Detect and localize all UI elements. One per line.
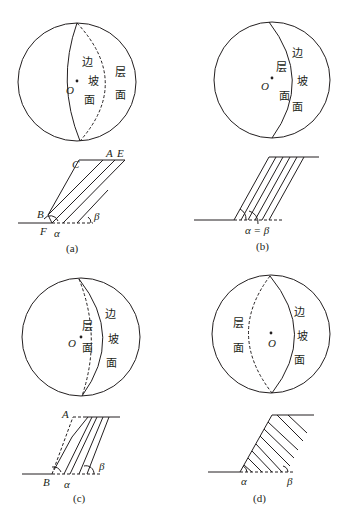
bedding-projection-AB bbox=[52, 417, 73, 474]
panel-a: O 边 坡 面 层 面 C A E B F α β bbox=[18, 23, 136, 255]
center-point bbox=[270, 332, 273, 335]
figure-canvas: O 边 坡 面 层 面 C A E B F α β bbox=[0, 0, 345, 517]
beta-label: β bbox=[286, 475, 293, 487]
alpha-label: α bbox=[241, 475, 247, 487]
point-A: A bbox=[61, 408, 69, 420]
slope-great-circle bbox=[67, 23, 80, 141]
bedding-line bbox=[77, 190, 108, 223]
bedding-line bbox=[268, 422, 298, 450]
point-B: B bbox=[43, 476, 50, 488]
bedding-great-circle bbox=[248, 276, 272, 393]
alpha-label: α bbox=[54, 227, 60, 239]
primitive-circle bbox=[214, 22, 330, 138]
center-label: O bbox=[68, 337, 76, 349]
panel-b: O 边 坡 面 层 面 α = β (b) bbox=[194, 22, 330, 253]
panel-c: O 边 坡 面 层 面 A B α β (c) bbox=[22, 278, 140, 505]
section-d: α β (d) bbox=[208, 415, 314, 505]
stereonet-b: O 边 坡 面 层 面 bbox=[214, 22, 330, 138]
slope-label-3: 面 bbox=[292, 101, 303, 114]
center-point bbox=[80, 336, 83, 339]
slope-face-upper bbox=[72, 417, 88, 437]
bedding-line bbox=[241, 157, 276, 220]
alpha-arc bbox=[52, 467, 61, 472]
center-point bbox=[76, 80, 79, 83]
bedding-line bbox=[70, 417, 97, 474]
slope-label-2: 坡 bbox=[108, 333, 119, 346]
bedding-label-1: 层 bbox=[82, 320, 93, 333]
stereonet-c: O 边 坡 面 层 面 bbox=[22, 278, 140, 396]
bedding-label-2: 面 bbox=[279, 90, 290, 103]
slope-label-1: 边 bbox=[294, 306, 305, 319]
beta-arc bbox=[283, 466, 288, 472]
bedding-line bbox=[256, 444, 282, 472]
slope-label-2: 坡 bbox=[297, 75, 308, 88]
bedding-line bbox=[244, 465, 252, 472]
center-label: O bbox=[268, 337, 276, 349]
bedding-line bbox=[87, 417, 109, 474]
caption-a: (a) bbox=[66, 242, 79, 255]
slope-label-1: 边 bbox=[105, 308, 116, 321]
slope-label-3: 面 bbox=[84, 94, 95, 107]
panel-d: O 边 坡 面 层 面 α β (d) bbox=[208, 275, 330, 505]
point-E: E bbox=[116, 147, 124, 159]
bedding-line bbox=[264, 429, 294, 458]
caption-d: (d) bbox=[253, 492, 266, 505]
slope-face bbox=[234, 157, 269, 220]
center-label: O bbox=[66, 84, 74, 96]
slope-label-3: 面 bbox=[294, 354, 305, 367]
section-c: A B α β (c) bbox=[22, 408, 120, 505]
center-point bbox=[271, 77, 274, 80]
slope-great-circle bbox=[270, 276, 295, 393]
bedding-line bbox=[262, 157, 297, 220]
beta-label: β bbox=[98, 460, 105, 472]
slope-face-lower bbox=[54, 437, 72, 470]
section-b: α = β (b) bbox=[194, 157, 319, 253]
stereonet-a: O 边 坡 面 层 面 bbox=[18, 23, 136, 141]
slope-label-1: 边 bbox=[82, 56, 93, 69]
coincident-great-circle bbox=[269, 22, 292, 138]
point-F: F bbox=[39, 225, 47, 237]
slope-label-2: 坡 bbox=[297, 330, 308, 343]
bedding-label-2: 面 bbox=[115, 89, 126, 102]
bedding-line bbox=[252, 451, 272, 472]
beta-arc bbox=[249, 211, 258, 224]
bedding-line bbox=[255, 157, 290, 220]
beta-label: β bbox=[93, 210, 100, 222]
caption-b: (b) bbox=[256, 240, 269, 253]
bedding-line bbox=[248, 157, 283, 220]
slope-label-3: 面 bbox=[106, 357, 117, 370]
slope-label-2: 坡 bbox=[88, 75, 99, 88]
section-a: C A E B F α β (a) bbox=[18, 147, 125, 255]
bedding-label-1: 层 bbox=[233, 317, 244, 330]
caption-c: (c) bbox=[73, 492, 86, 505]
point-B: B bbox=[37, 208, 44, 220]
alpha-arc bbox=[240, 209, 246, 220]
center-label: O bbox=[261, 80, 269, 92]
alpha-equals-beta-label: α = β bbox=[245, 224, 270, 236]
point-A: A bbox=[105, 147, 113, 159]
bedding-line bbox=[288, 415, 307, 433]
beta-arc bbox=[88, 217, 91, 223]
bedding-line bbox=[260, 436, 290, 466]
stereonet-d: O 边 坡 面 层 面 bbox=[212, 275, 330, 393]
bedding-line bbox=[277, 415, 303, 441]
bedding-label-2: 面 bbox=[82, 342, 93, 355]
bedding-label-1: 层 bbox=[276, 61, 287, 74]
alpha-label: α bbox=[64, 478, 70, 490]
bedding-label-2: 面 bbox=[233, 342, 244, 355]
bedding-label-1: 层 bbox=[115, 66, 126, 79]
slope-label-1: 边 bbox=[292, 47, 303, 60]
bedding-line bbox=[269, 157, 304, 220]
point-C: C bbox=[72, 158, 80, 170]
